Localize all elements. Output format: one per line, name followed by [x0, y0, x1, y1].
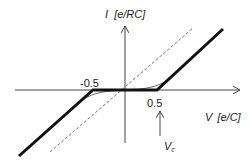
tick-label-negative: -0.5	[80, 77, 99, 89]
iv-characteristic-diagram: I [e/RC] V [e/C] -0.5 0.5 Vc	[0, 0, 250, 166]
y-axis-label: I [e/RC]	[105, 8, 146, 20]
vc-label: Vc	[164, 140, 175, 153]
blockade-line	[19, 29, 223, 156]
x-axis-label: V [e/C]	[205, 111, 242, 123]
tick-label-positive: 0.5	[147, 97, 162, 109]
